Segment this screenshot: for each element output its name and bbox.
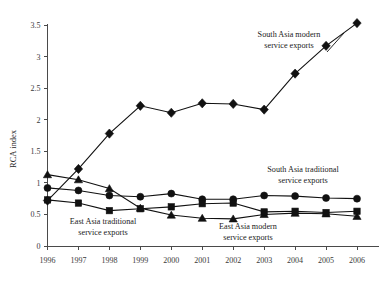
y-tick-label: 0: [37, 242, 41, 251]
square-marker: [106, 207, 112, 213]
annotation-east-asia-traditional-line1: East Asia traditional: [70, 217, 137, 226]
annotation-east-asia-traditional: East Asia traditional service exports: [70, 217, 137, 237]
annotation-south-asia-traditional-line1: South Asia traditional: [267, 165, 339, 174]
circle-marker: [292, 193, 299, 200]
diamond-marker: [353, 19, 361, 28]
y-tick-label: 3.5: [31, 21, 41, 30]
series-circle: [44, 184, 361, 202]
square-marker: [75, 200, 81, 206]
x-axis: 1996199719981999200020012002200320042005…: [40, 246, 380, 265]
annotation-east-asia-modern-line2: service exports: [223, 233, 272, 242]
annotation-south-asia-modern: South Asia modern service exports: [258, 30, 344, 52]
square-marker: [292, 208, 298, 214]
annotation-south-asia-modern-line1: South Asia modern: [258, 30, 321, 39]
y-axis-title: RCA index: [8, 129, 18, 168]
x-tick-label: 2006: [349, 256, 365, 265]
circle-marker: [261, 192, 268, 199]
x-tick-label: 2000: [163, 256, 179, 265]
circle-marker: [354, 195, 361, 202]
square-marker: [137, 206, 143, 212]
y-tick-label: 2: [37, 116, 41, 125]
circle-marker: [106, 192, 113, 199]
x-tick-label: 1997: [70, 256, 86, 265]
square-marker: [323, 209, 329, 215]
x-tick-label: 1999: [132, 256, 148, 265]
annotation-south-asia-modern-line2: service exports: [264, 41, 313, 50]
x-tick-label: 2004: [287, 256, 303, 265]
circle-marker: [168, 190, 175, 197]
diamond-marker: [229, 99, 237, 108]
chart-canvas: 00.511.522.533.5 19961997199819992000200…: [0, 0, 391, 282]
annotation-east-asia-modern-line1: East Asia modern: [219, 222, 277, 231]
square-marker: [230, 200, 236, 206]
x-tick-label: 1996: [40, 256, 56, 265]
x-tick-label: 2002: [225, 256, 241, 265]
annotation-south-asia-traditional: South Asia traditional service exports: [267, 165, 339, 185]
y-tick-label: 0.5: [31, 210, 41, 219]
circle-marker: [137, 193, 144, 200]
x-tick-label: 2001: [194, 256, 210, 265]
circle-marker: [44, 184, 51, 191]
y-tick-label: 1.5: [31, 147, 41, 156]
y-axis: 00.511.522.533.5: [31, 21, 48, 251]
circle-marker: [75, 187, 82, 194]
square-marker: [168, 204, 174, 210]
y-tick-label: 2.5: [31, 84, 41, 93]
square-marker: [261, 209, 267, 215]
square-marker: [44, 197, 50, 203]
circle-marker: [323, 195, 330, 202]
x-tick-label: 2005: [318, 256, 334, 265]
triangle-marker: [43, 171, 51, 178]
diamond-marker: [198, 99, 206, 108]
diamond-marker: [167, 108, 175, 117]
annotation-east-asia-traditional-line2: service exports: [78, 228, 127, 237]
y-tick-label: 3: [37, 53, 41, 62]
x-tick-label: 1998: [101, 256, 117, 265]
annotation-east-asia-modern: East Asia modern service exports: [219, 222, 277, 242]
square-marker: [354, 208, 360, 214]
x-tick-label: 2003: [256, 256, 272, 265]
annotation-south-asia-traditional-line2: service exports: [278, 176, 327, 185]
rca-index-line-chart: 00.511.522.533.5 19961997199819992000200…: [0, 0, 391, 282]
square-marker: [199, 200, 205, 206]
y-tick-label: 1: [37, 179, 41, 188]
